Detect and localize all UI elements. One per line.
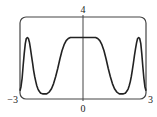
- x-tick-label-left: −3: [7, 94, 18, 105]
- x-tick-label-center: 0: [81, 103, 86, 114]
- x-tick-label-right: 3: [148, 94, 153, 105]
- chart: 4 −3 0 3: [0, 0, 157, 117]
- y-tick-label-top: 4: [81, 4, 86, 15]
